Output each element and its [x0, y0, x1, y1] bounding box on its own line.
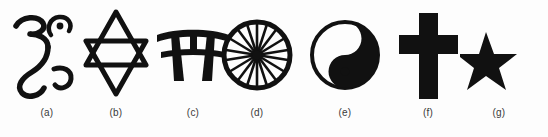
star-and-crescent-icon — [460, 16, 538, 96]
symbol-cell-a: (a) — [8, 0, 86, 137]
om-icon — [10, 6, 84, 102]
symbol-caption-b: (b) — [76, 107, 156, 119]
star-of-david-icon — [77, 6, 155, 100]
symbol-figure-panel: (a) (b) (c) — [0, 0, 548, 137]
yin-yang-icon — [307, 16, 383, 94]
symbol-caption-d: (d) — [218, 107, 296, 119]
symbol-cell-f: (f) — [390, 0, 466, 137]
symbol-cell-b: (b) — [76, 0, 156, 137]
latin-cross-icon — [391, 11, 465, 101]
symbol-cell-e: (e) — [306, 0, 384, 137]
dharma-wheel-icon — [219, 16, 295, 94]
symbol-caption-f: (f) — [390, 107, 466, 119]
symbol-cell-g: (g) — [459, 0, 539, 137]
symbol-caption-e: (e) — [306, 107, 384, 119]
symbol-caption-a: (a) — [8, 107, 86, 119]
symbol-cell-d: (d) — [218, 0, 296, 137]
symbol-caption-g: (g) — [459, 107, 539, 119]
